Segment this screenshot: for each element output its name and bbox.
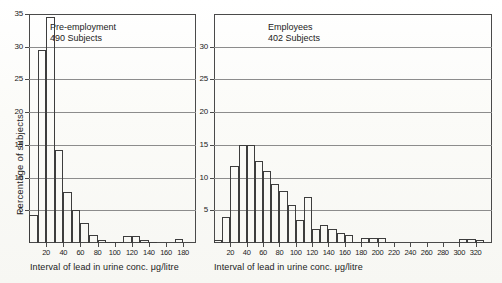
histogram-bar [55, 150, 64, 243]
histogram-bar [312, 229, 320, 243]
x-axis-tick-mark [230, 243, 231, 247]
histogram-bar [353, 242, 361, 243]
histogram-bar [72, 210, 81, 243]
x-axis-tick-mark [46, 243, 47, 247]
x-axis-tick-mark [394, 243, 395, 247]
gridline [214, 145, 492, 146]
x-axis-tick-mark [80, 243, 81, 247]
x-axis-tick-mark [410, 243, 411, 247]
y-axis-tick-mark [210, 210, 214, 211]
histogram-bar [328, 229, 336, 243]
gridline [214, 112, 492, 113]
histogram-bar [378, 238, 386, 243]
histogram-bar [89, 235, 98, 243]
y-axis-tick-label: 30 [5, 42, 23, 51]
histogram-bar [296, 220, 304, 243]
x-axis-tick-mark [443, 243, 444, 247]
y-axis-tick-mark [210, 145, 214, 146]
histogram-bar [132, 236, 141, 243]
histogram-bar [106, 242, 115, 243]
histogram-bar [46, 17, 55, 243]
y-axis-tick-label: 15 [5, 140, 23, 149]
histogram-bar [149, 242, 158, 243]
histogram-bar [247, 145, 255, 243]
histogram-bar [263, 171, 271, 243]
histogram-bar [175, 239, 184, 243]
y-axis-tick-label: 20 [5, 107, 23, 116]
x-axis-tick-mark [378, 243, 379, 247]
x-axis-tick-mark [263, 243, 264, 247]
histogram-bar [80, 223, 89, 243]
y-axis-tick-mark [210, 47, 214, 48]
panel-subtitle-left: 490 Subjects [50, 33, 116, 44]
x-axis-tick-mark [279, 243, 280, 247]
x-axis-title-left: Interval of lead in urine conc. μg/litre [30, 262, 179, 272]
panel-title-right: Employees [268, 22, 320, 33]
x-axis-tick-mark [247, 243, 248, 247]
y-axis-tick-mark [210, 178, 214, 179]
histogram-bar [255, 161, 263, 243]
y-axis-tick-label: 35 [5, 9, 23, 18]
histogram-bar [214, 240, 222, 243]
y-axis-tick-label: 20 [190, 107, 208, 116]
histogram-bar [29, 215, 38, 243]
x-axis-tick-mark [149, 243, 150, 247]
histogram-bar [337, 233, 345, 243]
histogram-bar [115, 242, 124, 243]
y-axis-tick-label: 30 [190, 42, 208, 51]
y-axis-tick-mark [210, 79, 214, 80]
x-axis-tick-mark [166, 243, 167, 247]
y-axis-tick-label: 10 [5, 173, 23, 182]
x-axis-tick-mark [476, 243, 477, 247]
histogram-bar [140, 240, 149, 243]
panel-subtitle-right: 402 Subjects [268, 33, 320, 44]
y-axis-tick-mark [25, 79, 29, 80]
histogram-bar [98, 240, 107, 243]
figure-canvas: Percentage of subjects Pre-employment 49… [0, 0, 502, 283]
histogram-bar [476, 240, 484, 243]
histogram-bar [361, 238, 369, 243]
x-axis-title-right: Interval of lead in urine conc. μg/litre [214, 262, 363, 272]
y-axis-tick-mark [25, 112, 29, 113]
y-axis-tick-mark [25, 210, 29, 211]
histogram-bar [467, 239, 475, 243]
panel-annotation-right: Employees 402 Subjects [268, 22, 320, 44]
y-axis-tick-mark [25, 14, 29, 15]
gridline [214, 79, 492, 80]
x-axis-tick-mark [98, 243, 99, 247]
gridline [214, 47, 492, 48]
x-axis-tick-mark [296, 243, 297, 247]
x-axis-tick-mark [312, 243, 313, 247]
y-axis-title: Percentage of subjects [14, 114, 25, 215]
x-axis-tick-mark [361, 243, 362, 247]
x-axis-tick-mark [345, 243, 346, 247]
histogram-bar [271, 184, 279, 243]
histogram-bar [123, 236, 132, 243]
panel-annotation-left: Pre-employment 490 Subjects [50, 22, 116, 44]
y-axis-tick-mark [25, 178, 29, 179]
y-axis-tick-label: 5 [5, 205, 23, 214]
histogram-bar [38, 50, 47, 243]
x-axis-tick-mark [328, 243, 329, 247]
histogram-bar [304, 197, 312, 243]
y-axis-tick-label: 15 [190, 140, 208, 149]
x-axis-tick-mark [63, 243, 64, 247]
histogram-bar [369, 238, 377, 243]
y-axis-tick-label: 25 [5, 74, 23, 83]
y-axis-tick-mark [25, 145, 29, 146]
histogram-bar [63, 192, 72, 243]
histogram-bar [239, 145, 247, 243]
histogram-bar [230, 166, 238, 243]
histogram-bar [288, 205, 296, 243]
x-axis-tick-mark [132, 243, 133, 247]
histogram-bar [222, 217, 230, 243]
histogram-bar [279, 191, 287, 243]
y-axis-tick-label: 25 [190, 74, 208, 83]
x-axis-tick-label: 180 [171, 248, 195, 257]
x-axis-tick-mark [427, 243, 428, 247]
y-axis-tick-label: 10 [190, 173, 208, 182]
y-axis-tick-mark [210, 112, 214, 113]
x-axis-tick-mark [115, 243, 116, 247]
x-axis-tick-mark [459, 243, 460, 247]
histogram-bar [386, 242, 394, 243]
